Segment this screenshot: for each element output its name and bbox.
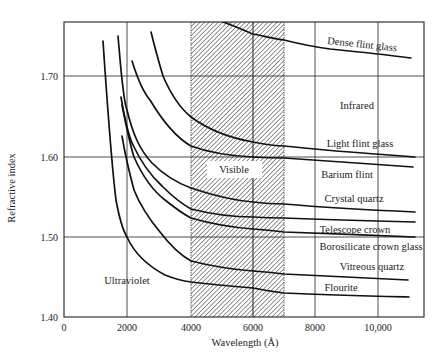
y-tick-1-60: 1.60 — [41, 152, 59, 163]
x-tick-2000: 2000 — [117, 322, 137, 333]
y-tick-1-40: 1.40 — [41, 312, 59, 323]
x-tick-8000: 8000 — [305, 322, 325, 333]
telescope-crown-label: Telescope crown — [320, 224, 391, 235]
vitreous-quartz-label: Vitreous quartz — [340, 261, 405, 272]
crystal-quartz-label: Crystal quartz — [324, 193, 384, 204]
x-tick-6000: 6000 — [243, 322, 263, 333]
x-tick-10000: 10,000 — [364, 322, 392, 333]
y-tick-labels: 1.70 1.60 1.50 1.40 — [41, 71, 59, 323]
light-flint-glass-label: Light flint glass — [327, 138, 394, 149]
infrared-label: Infrared — [340, 100, 375, 111]
barium-flint-label: Barium flint — [321, 169, 373, 180]
ultraviolet-label: Ultraviolet — [104, 275, 150, 286]
x-tick-0: 0 — [62, 322, 67, 333]
borosilicate-crown-glass-label: Borosilicate crown glass — [319, 241, 422, 252]
refractive-index-chart: 1.70 1.60 1.50 1.40 0 2000 4000 6000 800… — [0, 0, 447, 364]
visible-label: Visible — [219, 164, 249, 175]
y-tick-1-50: 1.50 — [41, 232, 59, 243]
x-tick-4000: 4000 — [181, 322, 201, 333]
y-axis-label: Refractive index — [6, 152, 17, 222]
x-axis-label: Wavelength (Å) — [211, 337, 279, 349]
y-tick-1-70: 1.70 — [41, 71, 59, 82]
flourite-label: Flourite — [324, 282, 358, 293]
x-tick-labels: 0 2000 4000 6000 8000 10,000 — [62, 322, 392, 333]
